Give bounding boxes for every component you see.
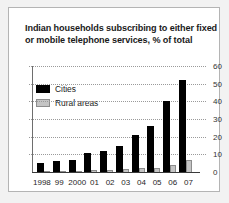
chart-frame: Indian households subscribing to either … xyxy=(8,7,220,192)
bar-rural-areas xyxy=(186,160,192,172)
bar-groups xyxy=(32,66,196,172)
x-axis-tick-labels: 199899200001020304050607 xyxy=(32,178,196,190)
bar-group xyxy=(116,66,129,172)
bar-rural-areas xyxy=(44,171,50,173)
y-axis-tick-label: 60 xyxy=(213,62,222,71)
x-axis-tick-label: 07 xyxy=(182,178,195,190)
y-axis-tick-label: 30 xyxy=(213,115,222,124)
bar-rural-areas xyxy=(76,171,82,173)
x-axis-tick-label: 04 xyxy=(135,178,148,190)
plot-area: 0102030405060 xyxy=(32,66,196,172)
bar-group xyxy=(179,66,192,172)
x-axis-tick-label: 01 xyxy=(88,178,101,190)
bar-cities xyxy=(147,126,154,172)
bar-cities xyxy=(37,163,44,172)
x-axis-tick-label: 03 xyxy=(119,178,132,190)
bar-group xyxy=(37,66,50,172)
x-axis-tick-label: 99 xyxy=(53,178,66,190)
bar-group xyxy=(163,66,176,172)
bar-group xyxy=(100,66,113,172)
chart-title: Indian households subscribing to either … xyxy=(25,22,221,46)
bar-group xyxy=(147,66,160,172)
bar-cities xyxy=(179,80,186,172)
bar-cities xyxy=(116,146,123,173)
bar-cities xyxy=(53,161,60,172)
bar-rural-areas xyxy=(139,168,145,172)
y-axis-tick-label: 10 xyxy=(213,150,222,159)
bar-group xyxy=(84,66,97,172)
bar-rural-areas xyxy=(154,168,160,172)
bar-cities xyxy=(132,135,139,172)
x-axis-tick-label: 2000 xyxy=(68,178,85,190)
y-axis-tick-label: 50 xyxy=(213,79,222,88)
bar-rural-areas xyxy=(123,169,129,172)
chart-figure: Indian households subscribing to either … xyxy=(0,0,229,203)
gridline xyxy=(32,172,200,173)
bar-cities xyxy=(84,153,91,172)
y-axis-tick-label: 20 xyxy=(213,132,222,141)
bar-rural-areas xyxy=(107,170,113,172)
bar-rural-areas xyxy=(170,165,176,172)
bar-group xyxy=(132,66,145,172)
bar-group xyxy=(53,66,66,172)
bar-cities xyxy=(100,151,107,172)
bar-cities xyxy=(69,160,76,172)
y-axis-tick-label: 0 xyxy=(213,168,217,177)
bar-rural-areas xyxy=(91,170,97,172)
x-axis-tick-label: 1998 xyxy=(33,178,50,190)
x-axis-tick-label: 05 xyxy=(151,178,164,190)
x-axis-tick-label: 06 xyxy=(166,178,179,190)
y-axis-tick-label: 40 xyxy=(213,97,222,106)
bar-group xyxy=(69,66,82,172)
bar-cities xyxy=(163,101,170,172)
x-axis-tick-label: 02 xyxy=(104,178,117,190)
bar-rural-areas xyxy=(60,171,66,173)
